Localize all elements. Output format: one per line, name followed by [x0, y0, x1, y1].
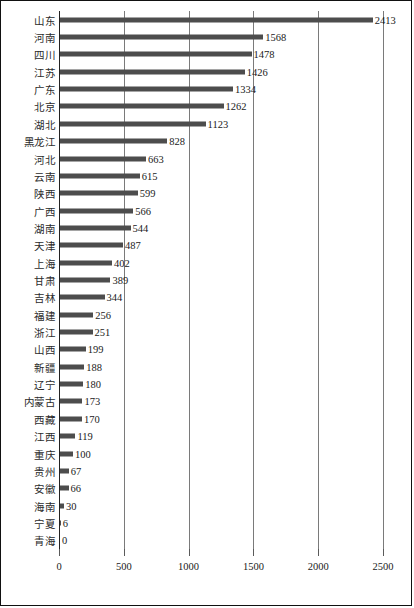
- bar-row: 天津487: [59, 237, 383, 254]
- bar-row: 辽宁180: [59, 375, 383, 392]
- bar-row: 黑龙江828: [59, 132, 383, 149]
- bar: [60, 312, 93, 317]
- category-label: 山东: [34, 12, 55, 27]
- category-label: 福建: [34, 307, 55, 322]
- bar: [60, 503, 64, 508]
- bar: [60, 347, 86, 352]
- category-label: 云南: [34, 168, 55, 183]
- value-label: 344: [107, 292, 123, 303]
- value-label: 1334: [235, 84, 256, 95]
- category-label: 西藏: [34, 411, 55, 426]
- category-label: 甘肃: [34, 272, 55, 287]
- category-label: 浙江: [34, 325, 55, 340]
- x-tick-label: 1000: [178, 561, 199, 572]
- bar: [60, 468, 69, 473]
- category-label: 河北: [34, 151, 55, 166]
- value-label: 828: [169, 136, 185, 147]
- value-label: 173: [84, 396, 100, 407]
- bar: [60, 87, 233, 92]
- bar: [60, 69, 245, 74]
- bar: [60, 382, 83, 387]
- value-label: 180: [85, 379, 101, 390]
- value-label: 615: [142, 170, 158, 181]
- bar: [60, 17, 373, 22]
- value-label: 256: [95, 309, 111, 320]
- bar-row: 河北663: [59, 150, 383, 167]
- value-label: 1262: [226, 101, 247, 112]
- category-label: 重庆: [34, 446, 55, 461]
- category-label: 青海: [34, 533, 55, 548]
- bar-row: 山东2413: [59, 11, 383, 28]
- x-axis: 05001000150020002500: [59, 549, 383, 589]
- x-tick: [383, 549, 384, 556]
- bar-row: 广东1334: [59, 80, 383, 97]
- value-label: 566: [135, 205, 151, 216]
- category-label: 河南: [34, 30, 55, 45]
- bar: [60, 399, 82, 404]
- bar-chart-figure: 山东2413河南1568四川1478江苏1426广东1334北京1262湖北11…: [0, 0, 412, 606]
- category-label: 新疆: [34, 359, 55, 374]
- bar-row: 浙江251: [59, 323, 383, 340]
- bar: [60, 434, 75, 439]
- value-label: 1426: [247, 66, 268, 77]
- plot-area: 山东2413河南1568四川1478江苏1426广东1334北京1262湖北11…: [59, 11, 383, 549]
- category-label: 江苏: [34, 64, 55, 79]
- category-label: 内蒙古: [24, 394, 56, 409]
- bar: [60, 121, 206, 126]
- bar-row: 新疆188: [59, 358, 383, 375]
- value-label: 67: [71, 465, 82, 476]
- bar-row: 江苏1426: [59, 63, 383, 80]
- bar: [60, 191, 138, 196]
- value-label: 66: [71, 483, 82, 494]
- bar: [60, 451, 73, 456]
- bar: [60, 35, 263, 40]
- value-label: 544: [133, 222, 149, 233]
- value-label: 251: [95, 327, 111, 338]
- x-tick: [318, 549, 319, 556]
- bar-row: 甘肃389: [59, 271, 383, 288]
- bar: [60, 139, 167, 144]
- value-label: 389: [112, 274, 128, 285]
- bar: [60, 486, 69, 491]
- x-tick-label: 0: [56, 561, 61, 572]
- value-label: 599: [140, 188, 156, 199]
- category-label: 湖南: [34, 220, 55, 235]
- value-label: 1568: [265, 32, 286, 43]
- category-label: 天津: [34, 238, 55, 253]
- bar-row: 四川1478: [59, 46, 383, 63]
- bar-row: 北京1262: [59, 98, 383, 115]
- bar-row: 云南615: [59, 167, 383, 184]
- category-label: 北京: [34, 99, 55, 114]
- x-tick-label: 500: [116, 561, 132, 572]
- value-label: 119: [77, 431, 92, 442]
- category-label: 黑龙江: [24, 134, 56, 149]
- category-label: 广西: [34, 203, 55, 218]
- category-label: 宁夏: [34, 515, 55, 530]
- value-label: 487: [125, 240, 141, 251]
- category-label: 安徽: [34, 481, 55, 496]
- bar: [60, 416, 82, 421]
- bar-row: 西藏170: [59, 410, 383, 427]
- category-label: 广东: [34, 82, 55, 97]
- bar-row: 湖南544: [59, 219, 383, 236]
- category-label: 四川: [34, 47, 55, 62]
- bar-row: 海南30: [59, 497, 383, 514]
- category-label: 江西: [34, 429, 55, 444]
- bar-row: 福建256: [59, 306, 383, 323]
- x-tick: [189, 549, 190, 556]
- bar-row: 湖北1123: [59, 115, 383, 132]
- value-label: 6: [63, 517, 68, 528]
- bar: [60, 104, 224, 109]
- bar: [60, 330, 93, 335]
- category-label: 海南: [34, 498, 55, 513]
- category-label: 湖北: [34, 116, 55, 131]
- value-label: 1123: [208, 118, 229, 129]
- value-label: 2413: [375, 14, 396, 25]
- bar-row: 广西566: [59, 202, 383, 219]
- value-label: 100: [75, 448, 91, 459]
- bar: [60, 260, 112, 265]
- value-label: 199: [88, 344, 104, 355]
- bar-row: 河南1568: [59, 28, 383, 45]
- bar-row: 江西119: [59, 428, 383, 445]
- bar-row: 山西199: [59, 341, 383, 358]
